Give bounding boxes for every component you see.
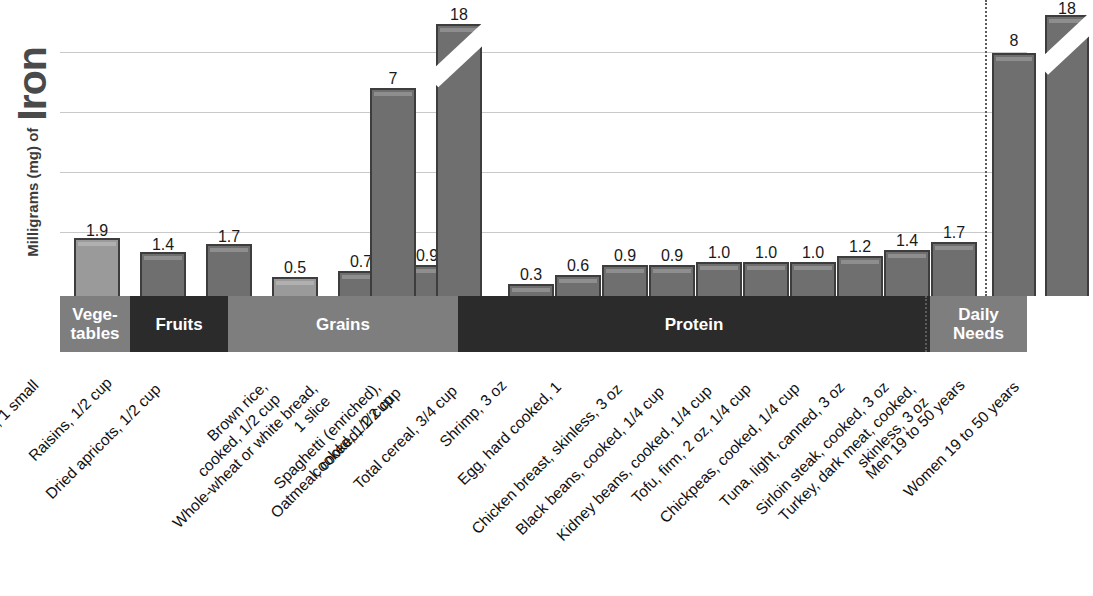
band-fruits[interactable]: Fruits xyxy=(130,296,228,352)
bar-tofu[interactable] xyxy=(743,262,789,296)
bar-value-7: 18 xyxy=(436,6,482,24)
x-axis-labels: ed potato with skin, 1 small Raisins, 1/… xyxy=(0,352,1027,596)
bar-highlight xyxy=(144,256,182,260)
band-protein[interactable]: Protein xyxy=(458,296,930,352)
bar-brown-rice[interactable] xyxy=(272,277,318,296)
bar-shrimp[interactable] xyxy=(508,284,554,296)
band-daily-needs[interactable]: Daily Needs xyxy=(930,296,1027,352)
bar-value-16: 1.4 xyxy=(884,232,930,250)
bar-highlight xyxy=(440,28,478,32)
xlabel-egg: Egg, hard cooked, 1 xyxy=(454,378,565,489)
bar-value-15: 1.2 xyxy=(837,238,883,256)
bar-tuna[interactable] xyxy=(837,256,883,296)
bar-highlight xyxy=(996,57,1032,61)
bar-value-10: 0.9 xyxy=(602,247,648,265)
bar-value-13: 1.0 xyxy=(743,244,789,262)
gridline-6 xyxy=(60,112,1027,113)
bar-highlight xyxy=(210,248,248,252)
bar-value-14: 1.0 xyxy=(790,244,836,262)
bar-value-11: 0.9 xyxy=(649,247,695,265)
bar-highlight xyxy=(1049,19,1085,23)
band-daily-needs-line2: Needs xyxy=(953,324,1004,343)
band-grains[interactable]: Grains xyxy=(228,296,458,352)
bar-highlight xyxy=(747,266,785,270)
band-daily-needs-line1: Daily xyxy=(953,305,1004,324)
gridline-4 xyxy=(60,172,1027,173)
bar-value-0: 1.9 xyxy=(74,222,120,240)
band-protein-label: Protein xyxy=(665,315,724,334)
bar-total-cereal[interactable] xyxy=(436,24,482,296)
bar-value-19: 18 xyxy=(1045,0,1089,18)
axis-break-divider xyxy=(985,0,987,296)
bar-women-daily-needs[interactable] xyxy=(1045,15,1089,296)
y-axis-title-small: Milligrams (mg) of xyxy=(24,128,41,257)
bar-value-12: 1.0 xyxy=(696,244,742,262)
bar-highlight xyxy=(559,279,597,283)
bar-chicken-breast[interactable] xyxy=(602,265,648,296)
bar-highlight xyxy=(841,260,879,264)
bar-kidney-beans[interactable] xyxy=(696,262,742,296)
bar-value-2: 1.7 xyxy=(206,228,252,246)
bar-highlight xyxy=(653,269,691,273)
bar-oatmeal[interactable] xyxy=(370,88,416,296)
bar-sirloin-steak[interactable] xyxy=(884,250,930,296)
bar-value-17: 1.7 xyxy=(931,224,977,242)
bar-highlight xyxy=(374,92,412,96)
band-vegetables-line1: Vege- xyxy=(70,305,119,324)
gridline-8 xyxy=(60,52,1027,53)
bar-highlight xyxy=(78,242,116,246)
bar-highlight xyxy=(794,266,832,270)
bar-dried-apricots[interactable] xyxy=(206,244,252,296)
category-band-row: Vege- tables Fruits Grains Protein Daily… xyxy=(60,296,1027,352)
bar-highlight xyxy=(888,254,926,258)
bar-value-18: 8 xyxy=(992,32,1036,50)
plot-area: 1.9 1.4 1.7 0.5 0.7 0.9 7 18 0.3 0.6 0. xyxy=(60,0,1027,296)
bar-value-6: 7 xyxy=(370,70,416,88)
bar-black-beans[interactable] xyxy=(649,265,695,296)
bar-men-daily-needs[interactable] xyxy=(992,53,1036,296)
bar-highlight xyxy=(276,281,314,285)
band-vegetables-line2: tables xyxy=(70,324,119,343)
bar-highlight xyxy=(935,246,973,250)
band-break-divider xyxy=(925,296,927,352)
band-fruits-label: Fruits xyxy=(155,315,202,334)
bar-egg[interactable] xyxy=(555,275,601,296)
xlabel-9-line1: Egg, hard cooked, 1 xyxy=(454,378,565,489)
y-axis-title-big: Iron xyxy=(15,47,49,120)
bar-baked-potato[interactable] xyxy=(74,238,120,296)
bar-value-1: 1.4 xyxy=(140,236,186,254)
bar-value-3: 0.5 xyxy=(272,259,318,277)
bar-highlight xyxy=(606,269,644,273)
band-vegetables[interactable]: Vege- tables xyxy=(60,296,130,352)
bar-raisins[interactable] xyxy=(140,252,186,296)
bar-turkey[interactable] xyxy=(931,242,977,296)
bar-value-9: 0.6 xyxy=(555,257,601,275)
bar-highlight xyxy=(700,266,738,270)
y-axis-title: Milligrams (mg) of Iron xyxy=(12,2,52,302)
bar-highlight xyxy=(512,288,550,292)
bar-chickpeas[interactable] xyxy=(790,262,836,296)
band-grains-label: Grains xyxy=(316,315,370,334)
bar-value-8: 0.3 xyxy=(508,266,554,284)
